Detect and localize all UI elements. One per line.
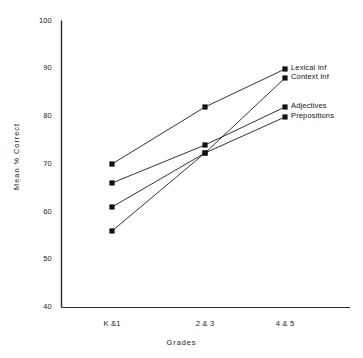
- series-markers-prepositions: [109, 114, 287, 209]
- x-tick-label-2-3: 2 & 3: [182, 319, 228, 328]
- x-tick-label-k1: K &1: [89, 319, 135, 328]
- y-axis-title: Mean % Correct: [12, 115, 21, 199]
- series-markers-context: [109, 75, 287, 233]
- series-label-prepositions: Prepositions: [291, 111, 334, 120]
- series-label-adjectives: Adjectives: [291, 101, 327, 110]
- series-line-context: [112, 78, 285, 231]
- y-tick-label-70: 70: [30, 159, 52, 168]
- y-tick-label-60: 60: [30, 207, 52, 216]
- chart-figure: 100 90 80 70 60 50 40 Mean % Correct K &…: [0, 0, 363, 358]
- series-markers-lexical: [109, 66, 287, 166]
- series-line-prepositions: [112, 117, 285, 207]
- x-tick-label-4-5: 4 & 5: [262, 319, 308, 328]
- y-tick-label-40: 40: [30, 302, 52, 311]
- y-tick-label-80: 80: [30, 111, 52, 120]
- y-tick-label-50: 50: [30, 254, 52, 263]
- series-line-lexical: [112, 69, 285, 164]
- x-axis-title: Grades: [0, 338, 363, 347]
- y-tick-label-100: 100: [30, 16, 52, 25]
- series-label-context-inf: Context Inf: [291, 72, 329, 81]
- y-tick-label-90: 90: [30, 63, 52, 72]
- series-line-adjectives: [112, 107, 285, 183]
- line-chart-plot: [0, 0, 363, 358]
- series-label-lexical-inf: Lexical Inf: [291, 63, 326, 72]
